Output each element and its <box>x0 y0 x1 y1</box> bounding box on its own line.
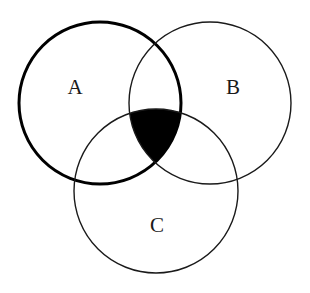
venn-diagram-canvas: A B C <box>0 0 310 293</box>
set-label-b: B <box>226 75 240 99</box>
set-label-c: C <box>150 213 164 237</box>
venn-diagram-figure: A B C <box>0 0 310 293</box>
set-label-a: A <box>67 75 83 99</box>
